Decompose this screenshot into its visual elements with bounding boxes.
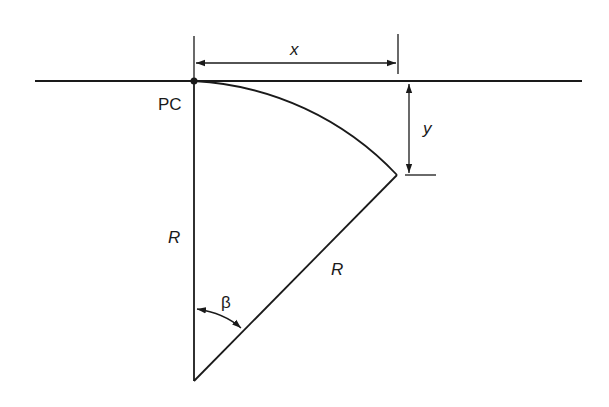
radius-slanted-label: R <box>331 260 343 279</box>
circular-curve-diagram: x y PC R R β <box>0 0 609 407</box>
angle-arc <box>197 309 241 328</box>
pc-label: PC <box>158 95 182 114</box>
y-label: y <box>422 119 433 138</box>
radius-vertical-label: R <box>168 228 180 247</box>
angle-label: β <box>221 293 231 312</box>
radius-slanted <box>194 175 397 381</box>
x-label: x <box>289 40 299 59</box>
curve-arc <box>194 81 397 175</box>
